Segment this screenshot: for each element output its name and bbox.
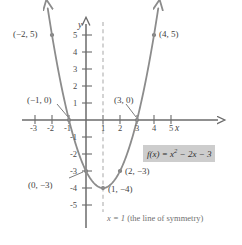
point-marker — [152, 33, 156, 37]
leader-line-3-0 — [126, 104, 136, 117]
equation-lhs: f(x) = x — [147, 149, 174, 159]
x-axis-label: x — [175, 124, 179, 134]
x-tick-label-neg2: -2 — [47, 124, 54, 133]
leader-line-neg1-0 — [57, 104, 68, 117]
point-label-1-neg4: (1, −4) — [108, 185, 133, 194]
equation-rhs: − 2x − 3 — [177, 149, 211, 159]
x-tick-label-3: 3 — [135, 124, 139, 133]
y-axis-label: y — [78, 21, 82, 31]
y-tick-label-neg1: -1 — [70, 133, 77, 142]
x-tick-label-1: 1 — [101, 124, 105, 133]
point-marker — [135, 118, 139, 122]
symmetry-equation: x = 1 — [107, 213, 125, 223]
point-label-0-neg3: (0, −3) — [28, 181, 53, 190]
x-tick-label-2: 2 — [118, 124, 122, 133]
y-tick-label-2: 2 — [73, 82, 77, 91]
y-tick-label-4: 4 — [73, 48, 77, 57]
point-label-3-0: (3, 0) — [114, 96, 134, 105]
point-label-neg2-5: (−2, 5) — [13, 30, 38, 39]
symmetry-caption: x = 1 (the line of symmetry) — [107, 213, 203, 223]
symmetry-caption-text: (the line of symmetry) — [127, 213, 203, 223]
x-tick-label-neg3: -3 — [30, 124, 37, 133]
x-tick-label-5: 5 — [169, 124, 173, 133]
point-label-neg1-0: (−1, 0) — [27, 96, 52, 105]
y-tick-label-neg5: -5 — [70, 201, 77, 210]
function-equation-box: f(x) = x2 − 2x − 3 — [143, 145, 215, 162]
y-tick-label-neg3: -3 — [70, 167, 77, 176]
point-label-2-neg3: (2, −3) — [125, 167, 150, 176]
point-marker — [101, 186, 105, 190]
point-marker — [67, 118, 71, 122]
y-tick-label-3: 3 — [73, 65, 77, 74]
point-label-4-5: (4, 5) — [159, 30, 179, 39]
point-marker — [84, 169, 88, 173]
y-tick-label-1: 1 — [73, 99, 77, 108]
point-marker — [118, 169, 122, 173]
y-tick-label-5: 5 — [73, 31, 77, 40]
y-tick-label-neg4: -4 — [70, 184, 77, 193]
parabola-figure: -3 -2 -1 1 2 3 4 5 5 4 3 2 1 -1 -2 -3 -4… — [0, 0, 242, 245]
y-tick-label-neg2: -2 — [70, 150, 77, 159]
point-marker — [50, 33, 54, 37]
x-tick-label-4: 4 — [152, 124, 156, 133]
